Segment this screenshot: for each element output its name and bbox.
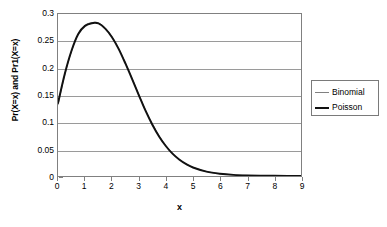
legend-item-poisson[interactable]: Poisson [315, 100, 377, 114]
x-tick-label: 8 [265, 182, 285, 191]
x-tick-label: 3 [129, 182, 149, 191]
x-tick-label: 4 [156, 182, 176, 191]
legend-swatch-poisson-icon [315, 104, 329, 110]
x-tick-mark [84, 177, 85, 181]
x-tick-mark [275, 177, 276, 181]
x-tick-mark [166, 177, 167, 181]
x-tick-label: 5 [183, 182, 203, 191]
legend-swatch-binomial-icon [315, 89, 329, 95]
legend-label: Binomial [332, 88, 365, 97]
x-tick-mark [139, 177, 140, 181]
x-tick-label: 2 [101, 182, 121, 191]
x-tick-label: 7 [238, 182, 258, 191]
x-tick-mark [248, 177, 249, 181]
legend: BinomialPoisson [311, 80, 379, 116]
chart-figure: Pr(X=x) and Pr1(X=x) 00.050.10.150.20.25… [0, 0, 387, 227]
x-tick-label: 6 [210, 182, 230, 191]
x-tick-mark [193, 177, 194, 181]
legend-label: Poisson [332, 103, 362, 112]
x-axis-title: x [57, 202, 302, 212]
x-tick-mark [220, 177, 221, 181]
x-tick-mark [302, 177, 303, 181]
x-tick-mark [57, 177, 58, 181]
x-tick-label: 1 [74, 182, 94, 191]
x-tick-label: 9 [292, 182, 312, 191]
x-tick-label: 0 [47, 182, 67, 191]
legend-item-binomial[interactable]: Binomial [315, 85, 377, 99]
x-tick-mark [111, 177, 112, 181]
